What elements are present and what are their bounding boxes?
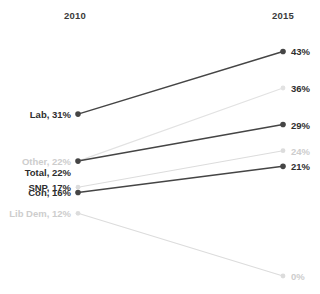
- series-right-label: 24%: [291, 145, 310, 156]
- series-left-label: Con, 16%: [28, 187, 71, 198]
- series-right-label: 0%: [291, 271, 305, 282]
- series-endpoint-dot: [280, 122, 286, 128]
- series-endpoint-dot: [76, 211, 81, 216]
- series-endpoint-dot: [75, 111, 81, 117]
- series-left-label: Other, 22%: [22, 156, 71, 167]
- series-left-label: Lib Dem, 12%: [9, 208, 71, 219]
- series-right-label: 36%: [291, 83, 310, 94]
- series-right-label: 21%: [291, 161, 310, 172]
- series-line: [78, 213, 283, 276]
- series-line: [78, 88, 283, 161]
- series-endpoint-dot: [281, 148, 286, 153]
- series-endpoint-dot: [281, 86, 286, 91]
- series-line: [78, 166, 283, 192]
- series-endpoint-dot: [75, 190, 81, 196]
- series-endpoint-dot: [280, 164, 286, 170]
- series-line: [78, 51, 283, 114]
- series-endpoint-dot: [280, 49, 286, 55]
- series-endpoint-dot: [75, 158, 81, 164]
- series-right-label: 29%: [291, 119, 310, 130]
- slope-chart: 2010 2015 Lab, 31%43%Other, 22%36%Total,…: [0, 0, 320, 294]
- series-endpoint-dot: [281, 274, 286, 279]
- series-right-label: 43%: [291, 46, 310, 57]
- series-lines: [78, 51, 283, 276]
- series-endpoint-dot: [76, 185, 81, 190]
- series-left-label: Lab, 31%: [30, 109, 71, 120]
- series-left-label: Total, 22%: [25, 167, 71, 178]
- slope-lines-layer: [0, 0, 320, 294]
